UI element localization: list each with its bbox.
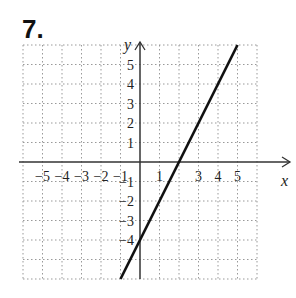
x-tick-label: −3 xyxy=(74,169,89,184)
x-tick-label: 4 xyxy=(215,169,222,184)
x-tick-label: 3 xyxy=(195,169,202,184)
y-tick-label: 4 xyxy=(127,77,134,92)
x-axis-label: x xyxy=(280,172,288,189)
x-tick-label: 5 xyxy=(234,169,241,184)
x-tick-label: −4 xyxy=(55,169,70,184)
coordinate-plane: xy−5−4−3−2−1134554321−1−2−3−4 xyxy=(0,0,296,298)
y-tick-label: 5 xyxy=(127,58,134,73)
y-tick-label: −4 xyxy=(119,233,134,248)
x-tick-label: 1 xyxy=(156,169,163,184)
y-tick-label: −2 xyxy=(119,194,134,209)
y-tick-label: −1 xyxy=(119,175,134,190)
y-tick-label: 1 xyxy=(127,136,134,151)
y-tick-label: −3 xyxy=(119,214,134,229)
y-tick-label: 2 xyxy=(127,116,134,131)
x-tick-label: −5 xyxy=(35,169,50,184)
y-tick-label: 3 xyxy=(127,97,134,112)
y-axis-label: y xyxy=(122,36,132,54)
x-tick-label: −2 xyxy=(94,169,109,184)
